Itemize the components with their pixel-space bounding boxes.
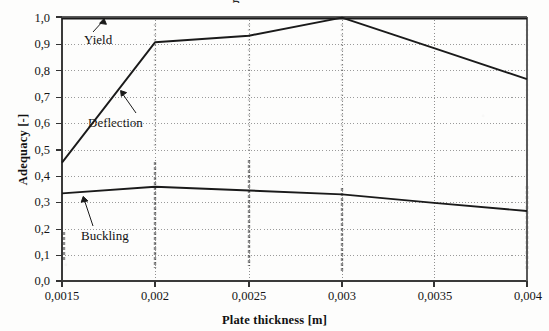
horizontal-gridlines xyxy=(62,44,527,255)
y-tick-marks xyxy=(56,17,62,281)
adequacy-vs-plate-thickness-chart: g Adequacy [-] Plate thickness [m] 0,0 0… xyxy=(0,0,549,331)
scan-noise-bands xyxy=(64,24,527,272)
annotation-leaders xyxy=(81,19,136,227)
series-line-deflection xyxy=(62,18,527,163)
series-line-buckling xyxy=(62,187,527,211)
plot-area xyxy=(0,0,549,331)
x-tick-marks xyxy=(62,281,527,287)
